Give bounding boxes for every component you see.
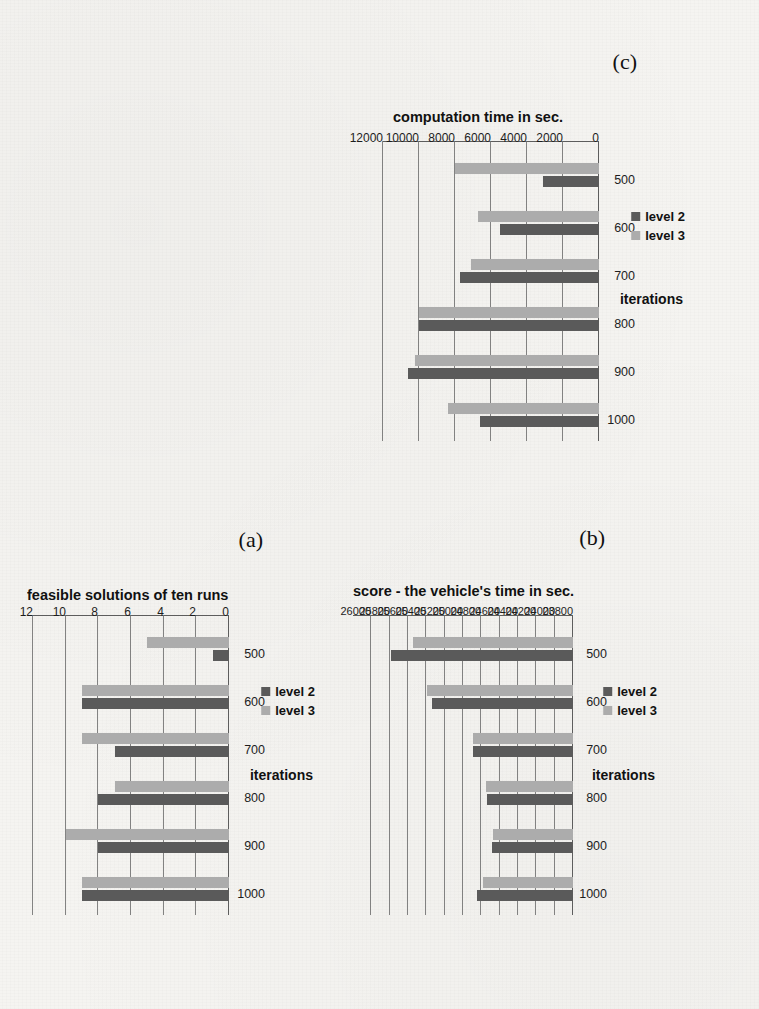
bar-level3 [483,877,573,888]
category-label: 1000 [607,413,635,427]
bar-level2 [480,416,599,427]
gridline [418,141,419,441]
gridline [370,615,371,915]
category-label: 800 [586,791,607,805]
bar-level3 [82,733,229,744]
category-label: 700 [244,743,265,757]
legend-item-level2: level 2 [261,684,315,699]
bar-level3 [448,403,599,414]
value-tick: 26000 [341,605,372,617]
bar-level2 [473,746,573,757]
value-tick: 4000 [500,131,527,145]
value-tick: 2 [190,605,197,619]
panel-b-x-axis-title: iterations [592,767,655,783]
bar-level2 [419,320,599,331]
gridline [97,615,98,915]
gridline [389,615,390,915]
panel-a-y-axis-title: feasible solutions of ten runs [27,587,228,603]
category-label: 800 [614,317,635,331]
value-tick: 2000 [536,131,563,145]
bar-level3 [486,781,573,792]
category-label: 1000 [579,887,607,901]
bar-level3 [415,355,599,366]
panel-b-y-axis-title: score - the vehicle's time in sec. [353,583,574,599]
bar-level3 [419,307,599,318]
gridline [163,615,164,915]
value-tick: 8 [92,605,99,619]
panel-c-caption: (c) [613,49,637,75]
gridline [382,141,383,441]
panel-a-caption: (a) [239,527,263,553]
gridline [32,615,33,915]
legend-item-level3: level 3 [631,228,685,243]
bar-level3 [66,829,229,840]
bar-level2 [408,368,599,379]
value-tick: 10000 [386,131,419,145]
value-tick: 4 [157,605,164,619]
legend-swatch-level3 [261,706,270,715]
value-tick: 12 [20,605,33,619]
legend-swatch-level2 [603,687,612,696]
legend-swatch-level2 [261,687,270,696]
category-label: 500 [614,173,635,187]
panel-a: 500 600 700 800 900 1000 0 2 4 6 8 10 12… [13,503,253,923]
gridline [526,141,527,441]
legend-item-level3: level 3 [261,703,315,718]
category-label: 900 [244,839,265,853]
category-label: 900 [586,839,607,853]
bar-level3 [147,637,229,648]
bar-level2 [432,698,573,709]
bar-level3 [455,163,599,174]
panel-b: 500 600 700 800 900 1000 23800 24000 242… [343,503,593,923]
legend-item-level3: level 3 [603,703,657,718]
legend-label-level2: level 2 [617,684,657,699]
panel-a-plot-area [33,615,229,915]
bar-level3 [427,685,573,696]
category-label: 700 [614,269,635,283]
category-label: 1000 [237,887,265,901]
bar-level3 [82,685,229,696]
panel-c-x-axis-title: iterations [620,291,683,307]
legend-item-level2: level 2 [603,684,657,699]
category-label: 700 [586,743,607,757]
scanned-figure-page: 500 600 700 800 900 1000 0 2 4 6 8 10 12… [0,0,759,1009]
bar-level3 [413,637,573,648]
bar-level2 [487,794,573,805]
panel-b-caption: (b) [579,525,605,551]
gridline [130,615,131,915]
gridline [490,141,491,441]
value-tick: 8000 [428,131,455,145]
panel-c: 500 600 700 800 900 1000 0 2000 4000 600… [371,29,621,449]
legend-label-level2: level 2 [275,684,315,699]
bar-level3 [478,211,599,222]
bar-level2 [213,650,229,661]
bar-level3 [115,781,229,792]
legend-label-level3: level 3 [617,703,657,718]
bar-level2 [543,176,599,187]
bar-level2 [98,842,229,853]
bar-level2 [82,698,229,709]
value-tick: 10 [52,605,65,619]
category-label: 800 [244,791,265,805]
panel-b-legend: level 2 level 3 [603,684,657,718]
value-tick: 6000 [464,131,491,145]
bar-level2 [500,224,599,235]
legend-label-level3: level 3 [275,703,315,718]
value-tick: 0 [592,131,599,145]
legend-item-level2: level 2 [631,209,685,224]
value-tick: 6 [124,605,131,619]
category-label: 900 [614,365,635,379]
bar-level2 [82,890,229,901]
bar-level2 [477,890,573,901]
bar-level2 [115,746,229,757]
bar-level2 [98,794,229,805]
panel-a-legend: level 2 level 3 [261,684,315,718]
value-tick: 0 [222,605,229,619]
gridline [65,615,66,915]
value-tick: 12000 [350,131,383,145]
panel-c-y-axis-title: computation time in sec. [393,109,563,125]
legend-swatch-level3 [603,706,612,715]
bar-level3 [82,877,229,888]
legend-swatch-level2 [631,212,640,221]
bar-level2 [492,842,573,853]
